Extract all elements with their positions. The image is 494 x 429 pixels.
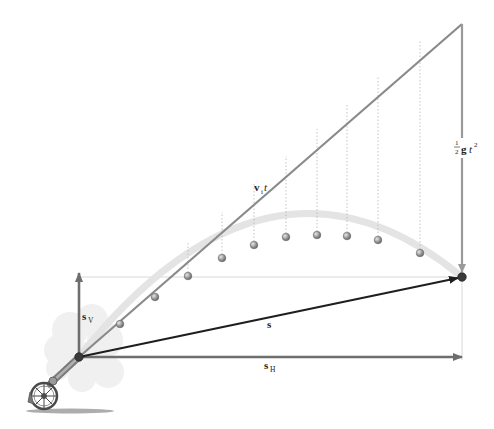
svg-text:g: g [461, 143, 467, 155]
label-horizontal-displacement: s H [264, 359, 276, 374]
drop-lines [188, 40, 420, 276]
svg-text:t: t [264, 181, 268, 193]
svg-text:s: s [82, 310, 87, 322]
svg-text:H: H [270, 365, 276, 374]
landing-point [458, 273, 466, 281]
cannon-muzzle [75, 353, 83, 361]
svg-text:2: 2 [455, 148, 459, 156]
svg-text:i: i [261, 188, 263, 196]
svg-text:s: s [267, 318, 272, 330]
label-displacement: s [267, 318, 272, 330]
svg-text:s: s [264, 359, 269, 371]
svg-text:v: v [254, 181, 260, 193]
projectile-balls [116, 231, 424, 328]
svg-text:V: V [88, 316, 94, 325]
cannon-wheel [31, 383, 57, 409]
label-gravity-drop: 1 2 g t 2 [454, 138, 484, 158]
svg-text:2: 2 [474, 141, 478, 149]
trajectory-path [79, 213, 462, 357]
svg-text:1: 1 [455, 139, 459, 147]
velocity-time-line [79, 24, 462, 357]
projectile-diagram: v i t 1 2 g t 2 s s H s V [0, 0, 494, 429]
